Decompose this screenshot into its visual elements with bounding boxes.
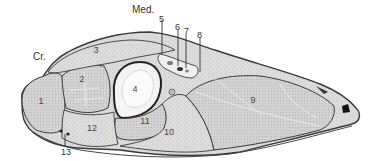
region-3-label: 3	[93, 45, 98, 55]
region-1-label: 1	[38, 96, 43, 106]
structure-13b	[66, 132, 69, 135]
cross-section-diagram: Med. Cr. 5 6 7 8 13 1 2 3 4 9 10 11 12	[0, 0, 372, 161]
cranial-label: Cr.	[33, 51, 46, 62]
medial-label: Med.	[132, 4, 154, 15]
region-4-label: 4	[132, 84, 137, 94]
structure-13a	[59, 129, 62, 132]
region-11-label: 11	[140, 116, 149, 126]
region-9-label: 9	[250, 95, 255, 105]
callout-13: 13	[61, 147, 71, 157]
callout-7: 7	[184, 26, 189, 36]
vessel-2	[177, 67, 183, 71]
vessel-3	[185, 70, 189, 73]
callout-6: 6	[175, 22, 180, 32]
callout-8: 8	[197, 30, 202, 40]
vessel-1	[167, 61, 173, 65]
region-2-label: 2	[79, 74, 84, 84]
region-12-label: 12	[87, 123, 97, 133]
vessel-4	[169, 89, 175, 95]
callout-5: 5	[159, 14, 164, 24]
region-10-label: 10	[164, 127, 174, 137]
